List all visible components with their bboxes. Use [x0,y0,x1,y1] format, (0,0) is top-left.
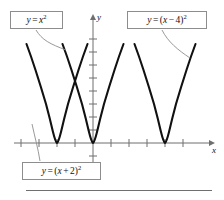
leader-line-left [36,30,66,50]
callout-bottom-exponent: 2 [78,164,81,171]
label-y-equals-x-squared: y=x2 [10,11,63,29]
label-y-equals-x-plus-2-squared: y=(x+2)2 [22,162,101,180]
callout-right-exponent: 2 [184,13,187,20]
figure-container: y x y=x2 y=(x−4)2 y=(x+2)2 [0,0,224,200]
y-axis-arrowhead [90,14,96,20]
x-axis-label: x [212,145,216,155]
callout-right-equals: = [151,15,159,25]
callout-left-equals: = [31,15,39,25]
leader-line-right [162,30,190,58]
y-axis-label: y [97,12,101,22]
bottom-divider-rule [26,190,212,191]
label-y-equals-x-minus-4-squared: y=(x−4)2 [127,11,207,29]
callout-bottom-operator: + [62,166,70,176]
callout-left-exponent: 2 [43,13,46,20]
parabola-y-equals-x-minus-4-squared [135,44,196,143]
callout-right-operator: − [167,15,175,25]
